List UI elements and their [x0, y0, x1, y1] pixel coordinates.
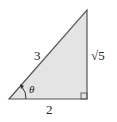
angle-label: θ [29, 84, 34, 95]
adjacent-label: 2 [46, 103, 53, 116]
hypotenuse-label: 3 [34, 49, 41, 62]
opposite-label: √5 [91, 49, 105, 62]
